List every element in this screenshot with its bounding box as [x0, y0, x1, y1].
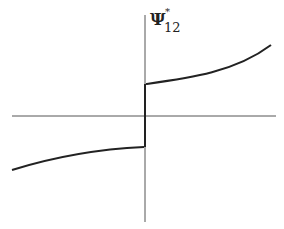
left-branch-curve — [12, 147, 144, 170]
axis-label-superscript: * — [165, 6, 170, 17]
psi-function-plot — [0, 0, 284, 229]
axis-label-subscript: 12 — [164, 20, 181, 35]
right-branch-curve — [146, 45, 271, 84]
